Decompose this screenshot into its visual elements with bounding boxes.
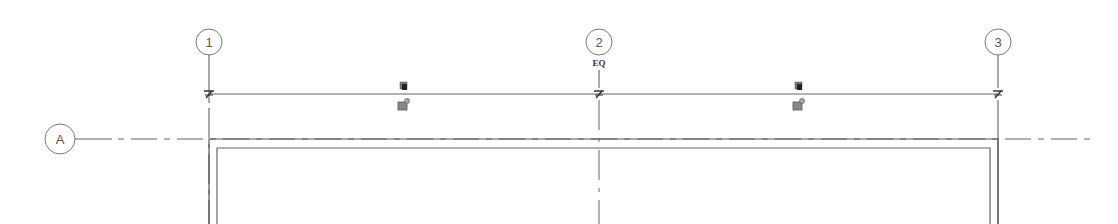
dimension-eq-label[interactable]: EQ	[592, 58, 605, 68]
grid-label-2: 2	[595, 35, 602, 50]
grid-label-3: 3	[994, 35, 1001, 50]
grid-label-a: A	[56, 132, 65, 147]
text-position-grip-icon[interactable]	[400, 82, 407, 90]
drawing-canvas[interactable]: 1 2 3 EQ	[0, 0, 1118, 224]
background	[0, 0, 1118, 224]
grid-label-1: 1	[205, 35, 212, 50]
text-position-grip-icon[interactable]	[795, 82, 802, 90]
